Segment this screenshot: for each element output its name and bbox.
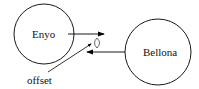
node-enyo-label: Enyo (32, 29, 55, 40)
offset-pointer-arrow (48, 44, 91, 72)
offset-label: offset (27, 75, 52, 86)
offset-dimension-icon (95, 38, 100, 48)
node-bellona-label: Bellona (143, 47, 177, 58)
